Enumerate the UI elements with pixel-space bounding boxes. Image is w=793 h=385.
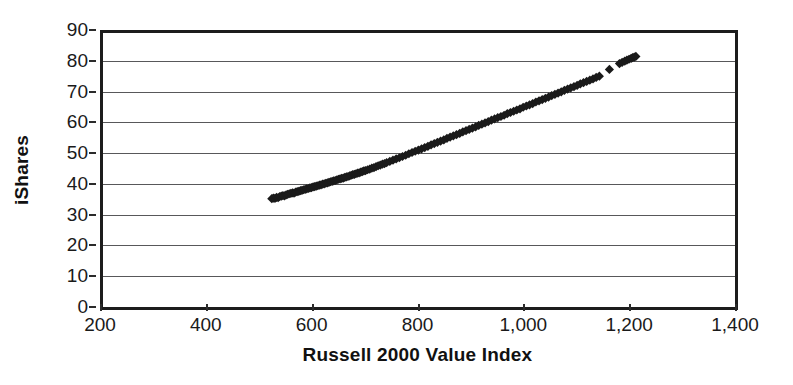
y-tick-mark-0 bbox=[89, 306, 96, 308]
x-tick-mark-400 bbox=[206, 304, 208, 311]
scatter-chart: iShares 0102030405060708090 200400600800… bbox=[0, 0, 793, 385]
y-tick-mark-70 bbox=[89, 91, 96, 93]
x-tick-label-200: 200 bbox=[84, 314, 116, 336]
y-tick-mark-50 bbox=[89, 152, 96, 154]
x-tick-mark-1000 bbox=[523, 304, 525, 311]
data-points-layer bbox=[103, 30, 738, 307]
y-tick-label-50: 50 bbox=[67, 142, 88, 164]
y-tick-mark-90 bbox=[89, 29, 96, 31]
series-0 bbox=[267, 52, 640, 203]
x-tick-label-1400: 1,400 bbox=[711, 314, 759, 336]
y-tick-mark-20 bbox=[89, 244, 96, 246]
y-tick-label-90: 90 bbox=[67, 19, 88, 41]
x-tick-label-800: 800 bbox=[402, 314, 434, 336]
y-tick-mark-10 bbox=[89, 275, 96, 277]
y-tick-label-40: 40 bbox=[67, 173, 88, 195]
y-tick-label-60: 60 bbox=[67, 111, 88, 133]
y-tick-label-70: 70 bbox=[67, 81, 88, 103]
y-tick-mark-60 bbox=[89, 121, 96, 123]
x-tick-label-600: 600 bbox=[296, 314, 328, 336]
x-tick-mark-200 bbox=[100, 304, 102, 311]
y-axis-title: iShares bbox=[0, 0, 44, 340]
data-point bbox=[605, 65, 614, 74]
x-tick-mark-1200 bbox=[629, 304, 631, 311]
x-tick-label-1200: 1,200 bbox=[605, 314, 653, 336]
x-tick-label-1000: 1,000 bbox=[500, 314, 548, 336]
y-tick-label-20: 20 bbox=[67, 234, 88, 256]
x-tick-mark-1400 bbox=[735, 304, 737, 311]
y-tick-mark-40 bbox=[89, 183, 96, 185]
plot-right-border bbox=[735, 30, 738, 310]
x-tick-mark-800 bbox=[418, 304, 420, 311]
y-axis-title-text: iShares bbox=[11, 135, 33, 205]
x-axis-ticks: 2004006008001,0001,2001,400 bbox=[0, 310, 793, 344]
y-tick-mark-30 bbox=[89, 214, 96, 216]
x-tick-mark-600 bbox=[312, 304, 314, 311]
plot-area bbox=[100, 30, 738, 310]
y-tick-mark-80 bbox=[89, 60, 96, 62]
y-tick-label-10: 10 bbox=[67, 265, 88, 287]
x-tick-label-400: 400 bbox=[190, 314, 222, 336]
x-axis-title: Russell 2000 Value Index bbox=[100, 344, 735, 366]
y-tick-label-80: 80 bbox=[67, 50, 88, 72]
y-tick-label-30: 30 bbox=[67, 204, 88, 226]
